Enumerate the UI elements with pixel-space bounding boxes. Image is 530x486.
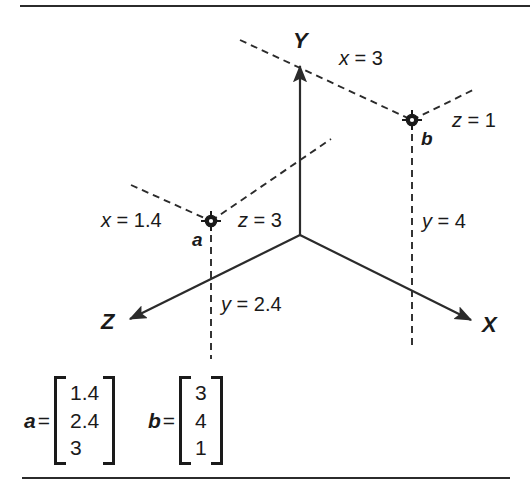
point-marker-b — [402, 110, 422, 130]
point-marker-a — [201, 211, 221, 231]
vector-b-block: b = 3 4 1 — [148, 376, 223, 465]
vector-a-equals: = — [38, 409, 50, 433]
vector-b-bracket: 3 4 1 — [179, 376, 223, 465]
coord-label-x14: x = 1.4 — [101, 210, 162, 230]
vector-b-equals: = — [163, 409, 175, 433]
bracket-left-icon — [54, 376, 66, 465]
dashed-b-x — [240, 40, 412, 120]
matrix-cell: 1 — [195, 434, 207, 462]
axis-label-y: Y — [293, 30, 308, 52]
vector-b-values: 3 4 1 — [191, 376, 211, 465]
axis-label-z: Z — [101, 311, 114, 333]
point-label-a: a — [192, 230, 203, 249]
vector-a-bracket: 1.4 2.4 3 — [54, 376, 115, 465]
vector-a-name: a — [24, 409, 36, 433]
bracket-left-icon — [179, 376, 191, 465]
vector-a-block: a = 1.4 2.4 3 — [24, 376, 115, 465]
matrix-cell: 1.4 — [70, 379, 99, 407]
axis-line-x — [300, 235, 471, 320]
coord-label-z3: z = 3 — [238, 210, 282, 230]
coord-label-y24: y = 2.4 — [221, 294, 282, 314]
coord-label-z1: z = 1 — [452, 110, 496, 130]
bracket-right-icon — [211, 376, 223, 465]
vector-a-values: 1.4 2.4 3 — [66, 376, 103, 465]
axis-label-x: X — [482, 314, 497, 336]
figure-container: Y X Z a b x = 3 z = 1 y = 4 x = 1.4 z = … — [0, 0, 530, 486]
point-label-b: b — [421, 129, 433, 148]
matrix-cell: 2.4 — [70, 407, 99, 435]
coord-label-y4: y = 4 — [422, 211, 466, 231]
vector-b-name: b — [148, 409, 161, 433]
bracket-right-icon — [103, 376, 115, 465]
matrix-cell: 3 — [70, 434, 99, 462]
coord-label-x3: x = 3 — [339, 48, 383, 68]
matrix-cell: 3 — [195, 379, 207, 407]
matrix-cell: 4 — [195, 407, 207, 435]
